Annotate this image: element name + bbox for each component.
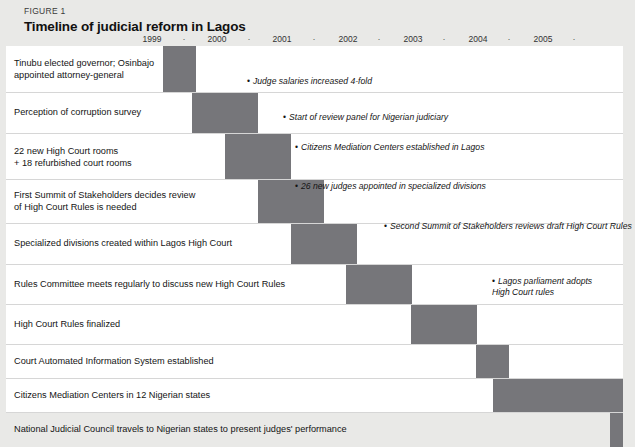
axis-tick-midyear-dot-3: · [313,33,316,46]
axis-tick-midyear-dot-6: · [508,33,511,46]
axis-tick-year-2001: 2001 [273,33,292,46]
timeline-bar[interactable] [493,379,623,413]
axis-tick-year-2004: 2004 [469,33,488,46]
axis-tick-year-1999: 1999 [143,33,162,46]
note-lagos-parliament: •Lagos parliament adopts High Court rule… [492,276,592,298]
bullet-icon: • [247,76,250,86]
annotation-text: 26 new judges appointed in specialized d… [301,181,486,191]
bullet-icon: • [295,142,298,152]
axis-tick-midyear-dot-2: · [248,33,251,46]
bullet-icon: • [283,112,286,122]
timeline-bar[interactable] [346,265,412,305]
bullet-icon: • [492,276,495,286]
axis-tick-midyear-dot-4: · [378,33,381,46]
annotation-text: Second Summit of Stakeholders reviews dr… [390,221,632,231]
timeline-row-label: Rules Committee meets regularly to discu… [14,279,285,291]
timeline-row-label: Perception of corruption survey [14,107,141,119]
timeline-bar[interactable] [291,224,357,265]
timeline-bar[interactable] [476,345,509,379]
figure-number-label: FIGURE 1 [24,6,584,17]
note-judge-salaries: •Judge salaries increased 4-fold [247,76,372,87]
bullet-icon: • [384,221,387,231]
timeline-row-label: 22 new High Court rooms + 18 refurbished… [14,146,132,169]
timeline-bar[interactable] [225,134,291,180]
annotation-text: Lagos parliament adopts High Court rules [492,276,592,297]
timeline-row-label: High Court Rules finalized [14,319,120,331]
note-second-summit: •Second Summit of Stakeholders reviews d… [384,221,632,232]
row-mediation-centers-states[interactable]: Citizens Mediation Centers in 12 Nigeria… [6,378,623,412]
timeline-bar[interactable] [610,413,623,447]
bullet-icon: • [295,181,298,191]
row-new-court-rooms[interactable]: 22 new High Court rooms + 18 refurbished… [6,133,623,179]
row-court-automated-system[interactable]: Court Automated Information System estab… [6,344,623,378]
figure-header: FIGURE 1 Timeline of judicial reform in … [24,6,584,35]
timeline-row-label: Citizens Mediation Centers in 12 Nigeria… [14,390,210,402]
axis-tick-year-2005: 2005 [534,33,553,46]
axis-tick-year-2002: 2002 [339,33,358,46]
row-national-judicial-council[interactable]: National Judicial Council travels to Nig… [6,412,623,446]
timeline-row-label: Specialized divisions created within Lag… [14,238,232,250]
axis-tick-year-2000: 2000 [208,33,227,46]
timeline-row-label: Court Automated Information System estab… [14,356,214,368]
timeline-bar[interactable] [163,46,196,92]
timeline-row-label: Tinubu elected governor; Osinbajo appoin… [14,58,154,81]
timeline-bar[interactable] [411,305,477,345]
timeline-bar[interactable] [192,93,258,134]
annotation-text: Judge salaries increased 4-fold [253,76,372,86]
note-review-panel: •Start of review panel for Nigerian judi… [283,112,448,123]
timeline-row-label: First Summit of Stakeholders decides rev… [14,190,195,213]
note-mediation-centers-lagos: •Citizens Mediation Centers established … [295,142,484,153]
timeline-row-label: National Judicial Council travels to Nig… [14,424,347,436]
annotation-text: Start of review panel for Nigerian judic… [289,112,448,122]
axis-tick-year-2003: 2003 [404,33,423,46]
axis-tick-midyear-dot-1: · [183,33,186,46]
axis-tick-midyear-dot-5: · [443,33,446,46]
axis-tick-midyear-dot-7: · [573,33,576,46]
annotation-text: Citizens Mediation Centers established i… [301,142,484,152]
note-26-new-judges: •26 new judges appointed in specialized … [295,181,486,192]
row-rules-finalized[interactable]: High Court Rules finalized [6,304,623,344]
timeline-axis: 1999200020012002200320042005······· [6,33,623,46]
